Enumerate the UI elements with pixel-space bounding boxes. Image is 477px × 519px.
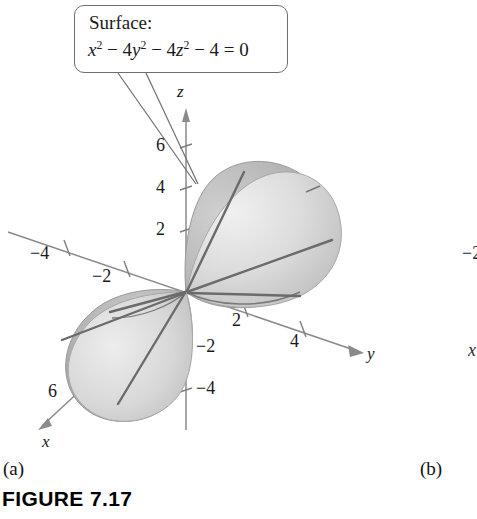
z-axis-arrowhead xyxy=(182,108,190,122)
z-tick-label-minus4: −4 xyxy=(196,378,215,399)
z-tick-label-6: 6 xyxy=(156,135,165,156)
y-tick-label-4: 4 xyxy=(290,331,299,352)
callout-equation: x2 − 4y2 − 4z2 − 4 = 0 xyxy=(88,39,249,61)
x-axis-arrowhead xyxy=(38,418,52,430)
y-tick-label-2: 2 xyxy=(232,310,241,331)
z-tick-label-4: 4 xyxy=(156,177,165,198)
y-axis-label: y xyxy=(367,344,375,364)
y-tick-label-minus4: −4 xyxy=(30,243,49,264)
x-tick-label-6: 6 xyxy=(48,381,57,402)
z-tick-label-minus2: −2 xyxy=(196,336,215,357)
upper-sheet xyxy=(185,161,341,307)
y-axis-arrowhead xyxy=(348,345,364,357)
lower-sheet xyxy=(66,289,193,421)
y-tick-minus2 xyxy=(124,261,130,277)
panel-b-x-axis-fragment: x xyxy=(468,340,477,361)
surface-plot-canvas xyxy=(0,0,477,519)
callout-leader-line-left xyxy=(118,73,196,184)
eq-minus-2: − 4 xyxy=(146,39,176,60)
surface-callout-box: Surface: x2 − 4y2 − 4z2 − 4 = 0 xyxy=(74,5,288,73)
z-axis-label: z xyxy=(177,82,184,102)
eq-tail: − 4 = 0 xyxy=(189,39,248,60)
y-tick-minus4 xyxy=(64,240,70,256)
panel-b-label: (b) xyxy=(420,458,442,480)
eq-z: z xyxy=(176,39,183,60)
x-axis-label: x xyxy=(42,432,50,452)
figure-caption: FIGURE 7.17 xyxy=(2,487,132,511)
y-tick-label-minus2: −2 xyxy=(92,266,111,287)
y-tick-4 xyxy=(300,321,306,337)
figure-page: Surface: x2 − 4y2 − 4z2 − 4 = 0 z y x 6 … xyxy=(0,0,477,519)
panel-b-tick-fragment: −2 xyxy=(462,243,477,264)
eq-minus-1: − 4 xyxy=(102,39,132,60)
callout-leader-line-right xyxy=(146,73,198,184)
z-tick-label-2: 2 xyxy=(156,219,165,240)
callout-title: Surface: xyxy=(89,12,152,34)
panel-a-label: (a) xyxy=(3,458,24,480)
